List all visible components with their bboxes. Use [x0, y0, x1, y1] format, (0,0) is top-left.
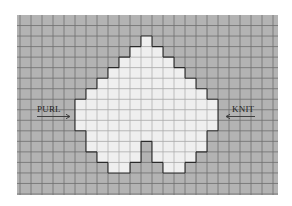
knit-label: KNIT [232, 104, 255, 114]
purl-label: PURL [37, 104, 61, 114]
knitting-chart: PURL KNIT [0, 0, 292, 206]
